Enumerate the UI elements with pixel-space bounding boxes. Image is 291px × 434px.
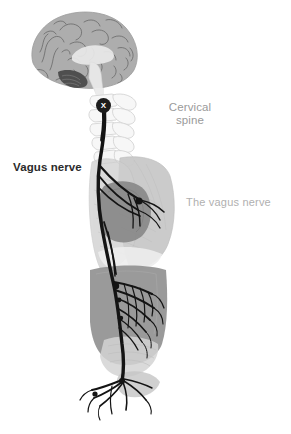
x-marker-badge: X: [96, 98, 111, 113]
label-cervical-spine: Cervical spine: [152, 101, 228, 127]
lungs-group: [89, 157, 174, 272]
pelvis: [100, 337, 158, 377]
brain-group: [32, 12, 137, 100]
vagus-nerve-figure: Vagus nerve Cervical spine The vagus ner…: [0, 0, 291, 434]
label-the-vagus-nerve: The vagus nerve: [186, 196, 271, 208]
anatomy-illustration: [0, 0, 291, 434]
label-vagus-nerve: Vagus nerve: [13, 161, 82, 174]
